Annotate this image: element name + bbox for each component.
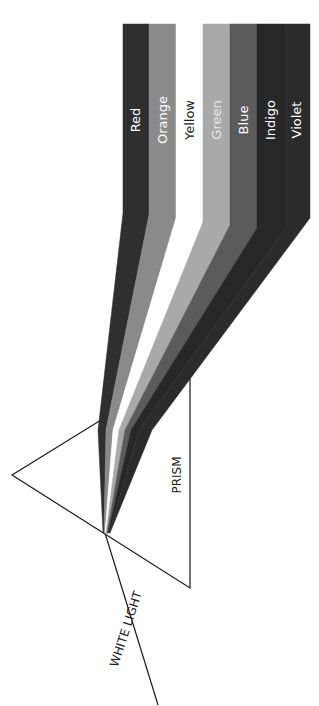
band-label-indigo: Indigo [264, 90, 278, 150]
band-label-orange: Orange [156, 90, 170, 150]
band-label-blue: Blue [237, 90, 251, 150]
prism-diagram: PRISM WHITE LIGHT RedOrangeYellowGreenBl… [0, 0, 319, 706]
band-label-green: Green [210, 90, 224, 150]
band-label-red: Red [129, 90, 143, 150]
band-label-yellow: Yellow [183, 90, 197, 150]
band-label-violet: Violet [290, 90, 304, 150]
prism-label: PRISM [170, 451, 184, 499]
